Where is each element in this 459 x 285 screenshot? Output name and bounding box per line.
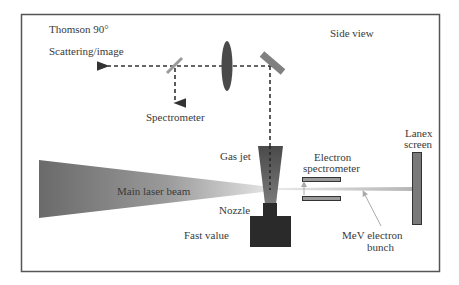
lanex-screen — [413, 153, 422, 225]
label-thomson: Thomson 90° — [49, 23, 109, 35]
label-spectrometer: Spectrometer — [146, 111, 205, 123]
nozzle-neck — [263, 203, 277, 217]
label-fast-value: Fast value — [184, 229, 229, 241]
label-scattering: Scattering/image — [49, 45, 124, 57]
label-side-view: Side view — [330, 27, 374, 39]
label-nozzle: Nozzle — [219, 204, 250, 216]
spectrometer-plate-top — [303, 178, 341, 182]
label-mev-electron: MeV electron — [342, 229, 403, 241]
electron-bunch-beam — [278, 187, 414, 191]
electron-bunch-pointer — [364, 193, 381, 226]
spectrometer-plate-bottom — [303, 197, 341, 201]
mirror-icon — [262, 54, 283, 72]
label-bunch: bunch — [367, 241, 394, 253]
label-gas-jet: Gas jet — [220, 150, 251, 162]
fast-valve-body — [250, 216, 291, 247]
laser-wakefield-setup-diagram: Thomson 90° Scattering/image Side view S… — [0, 0, 459, 285]
label-screen: screen — [404, 138, 433, 150]
lens-icon — [222, 41, 233, 91]
label-main-laser-beam: Main laser beam — [117, 185, 191, 197]
label-electron-spectrometer: spectrometer — [303, 162, 360, 174]
